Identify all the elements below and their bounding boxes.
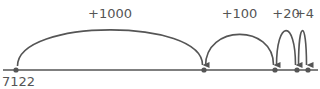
start-value-label: 7122: [2, 74, 35, 89]
jump-label: +1000: [88, 6, 132, 21]
jump-arc: [277, 31, 296, 66]
number-line-point: [272, 67, 277, 72]
number-line-point: [305, 67, 310, 72]
number-line-point: [13, 67, 18, 72]
jump-arc: [18, 30, 203, 66]
jump-label: +4: [295, 6, 314, 21]
jump-label: +100: [222, 6, 258, 21]
number-line-diagram: +1000+100+20+4 7122: [0, 0, 320, 89]
number-line-point: [201, 67, 206, 72]
number-line-point: [294, 67, 299, 72]
jump-arc: [206, 34, 274, 66]
jump-arc: [299, 31, 307, 66]
